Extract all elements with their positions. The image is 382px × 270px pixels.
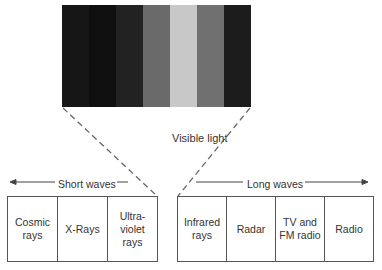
long-waves-label: Long waves [246,178,304,190]
cell-ultraviolet-rays: Ultra- violet rays [108,197,157,261]
visible-light-label: Visible light [172,132,227,144]
cell-infrared-rays: Infrared rays [178,197,227,261]
right-arrowhead-icon [362,180,368,185]
cell-tv-fm-radio: TV and FM radio [276,197,325,261]
long-waves-group: Infrared rays Radar TV and FM radio Radi… [177,196,374,262]
cell-x-rays: X-Rays [58,197,108,261]
left-arrowhead-icon [10,180,16,185]
short-waves-group: Cosmic rays X-Rays Ultra- violet rays [7,196,158,262]
right-dashed-connector [178,108,250,196]
cell-radio: Radio [325,197,373,261]
short-waves-label: Short waves [57,178,117,190]
cell-radar: Radar [227,197,276,261]
cell-cosmic-rays: Cosmic rays [8,197,58,261]
